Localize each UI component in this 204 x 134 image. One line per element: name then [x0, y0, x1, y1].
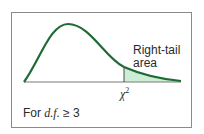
df-prefix: For: [23, 106, 44, 120]
right-tail-label: Right-tail area: [133, 44, 180, 70]
chi-superscript: 2: [125, 86, 129, 95]
df-italic: d.f.: [44, 106, 59, 120]
right-tail-label-line2: area: [133, 57, 180, 70]
df-suffix: ≥ 3: [60, 106, 80, 120]
degrees-of-freedom-note: For d.f. ≥ 3: [23, 106, 80, 121]
chi-square-critical-label: χ2: [120, 86, 129, 102]
